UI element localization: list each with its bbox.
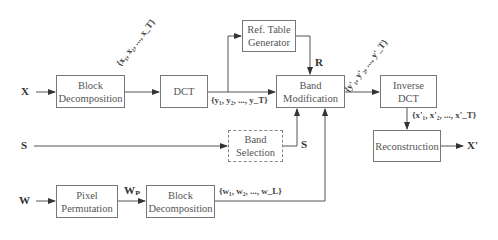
dct-box: DCT xyxy=(160,75,208,108)
input-x-label: X xyxy=(21,85,29,97)
band-selection-box: Band Selection xyxy=(228,130,283,162)
band-modification-box: Band Modification xyxy=(276,75,345,108)
reconstruction-box: Reconstruction xyxy=(373,130,441,162)
w-blocks-label: {w₁, w₂, ..., w_L} xyxy=(219,186,282,196)
pixel-permutation-box: Pixel Permutation xyxy=(56,185,118,218)
inverse-dct-box: Inverse DCT xyxy=(380,75,437,108)
block-decomposition-box: Block Decomposition xyxy=(56,75,125,108)
input-w-label: W xyxy=(19,194,30,206)
input-s-label: S xyxy=(21,139,27,151)
y-coefficients-label: {y₁, y₂, ..., y_T} xyxy=(211,95,268,105)
block-decomposition-bottom-box: Block Decomposition xyxy=(146,185,215,218)
x-reconstructed-blocks-label: {x'₁, x'₂, ..., x'_T} xyxy=(412,110,476,120)
output-x-prime-label: X' xyxy=(467,139,478,151)
ref-table-generator-box: Ref. Table Generator xyxy=(242,20,296,52)
s-selection-label: S xyxy=(301,138,307,150)
r-label: R xyxy=(315,56,323,68)
wp-label: Wₚ xyxy=(124,184,140,197)
